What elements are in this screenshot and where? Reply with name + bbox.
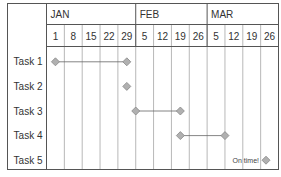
milestone-diamond-icon <box>123 58 131 66</box>
week-label: 12 <box>157 31 169 42</box>
milestone-diamond-icon <box>176 132 184 140</box>
chart-border <box>8 4 279 170</box>
annotation-label: On time! <box>233 157 260 164</box>
week-label: 8 <box>70 31 76 42</box>
week-label: 12 <box>228 31 240 42</box>
week-label: 5 <box>142 31 148 42</box>
week-label: 19 <box>246 31 258 42</box>
milestone-diamond-icon <box>132 107 140 115</box>
week-label: 26 <box>193 31 205 42</box>
task-label: Task 5 <box>14 155 43 166</box>
milestone-diamond-icon <box>221 132 229 140</box>
week-label: 26 <box>264 31 276 42</box>
week-label: 19 <box>175 31 187 42</box>
gantt-chart: JANFEBMAR1815222951219265121926Task 1Tas… <box>0 0 281 177</box>
week-label: 5 <box>213 31 219 42</box>
month-label: JAN <box>51 9 70 20</box>
gantt-svg: JANFEBMAR1815222951219265121926Task 1Tas… <box>0 0 281 177</box>
milestone-diamond-icon <box>123 82 131 90</box>
task-label: Task 1 <box>14 56 43 67</box>
milestone-diamond-icon <box>176 107 184 115</box>
milestone-diamond-icon <box>262 156 270 164</box>
month-label: FEB <box>140 9 160 20</box>
week-label: 15 <box>86 31 98 42</box>
milestone-diamond-icon <box>51 58 59 66</box>
week-label: 29 <box>121 31 133 42</box>
month-label: MAR <box>211 9 233 20</box>
week-label: 1 <box>53 31 59 42</box>
task-label: Task 3 <box>14 106 43 117</box>
task-label: Task 2 <box>14 81 43 92</box>
task-label: Task 4 <box>14 130 43 141</box>
week-label: 22 <box>103 31 115 42</box>
